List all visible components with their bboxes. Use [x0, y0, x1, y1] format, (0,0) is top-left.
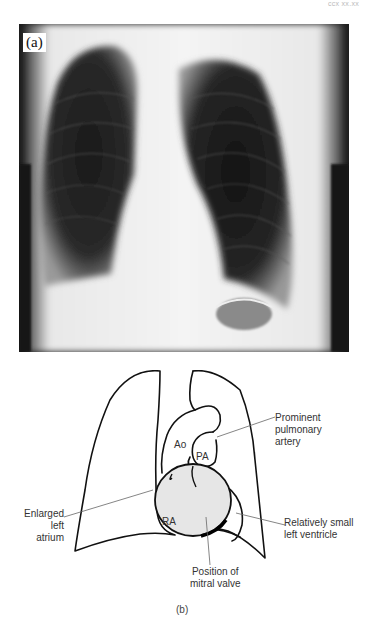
label-prominent-pulmonary-artery: Prominent pulmonary artery [275, 412, 322, 448]
label-enlarged-left-atrium: Enlarged left atrium [24, 508, 64, 544]
chest-xray-image [19, 24, 349, 352]
page-header-text: ccx xx.xx [328, 0, 359, 7]
aorta-outline [162, 406, 221, 473]
heart-lung-diagram: Ao PA RA Prominent pulmonary artery Enla… [0, 370, 365, 633]
label-aorta: Ao [174, 439, 186, 451]
label-pulmonary-artery: PA [196, 451, 209, 463]
panel-a-label: (a) [23, 33, 46, 52]
label-right-atrium: RA [162, 516, 176, 528]
right-lung-outline [75, 371, 175, 551]
label-mitral-valve-position: Position of mitral valve [190, 566, 241, 590]
label-small-left-ventricle: Relatively small left ventricle [284, 517, 353, 541]
panel-b-label: (b) [176, 604, 188, 615]
